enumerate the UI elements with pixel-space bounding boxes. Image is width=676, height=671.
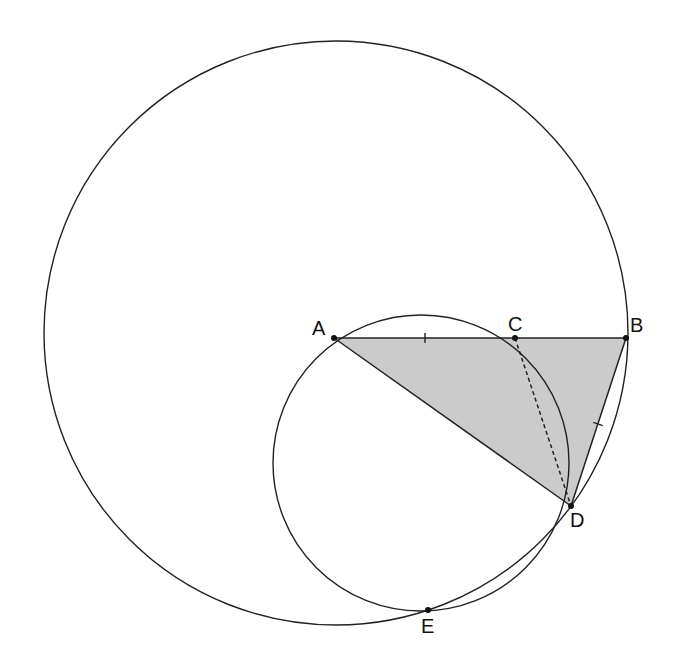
point-label-C: C — [508, 314, 522, 334]
point-label-D: D — [570, 510, 584, 530]
point-A — [331, 335, 337, 341]
large-circle — [44, 41, 628, 625]
point-B — [623, 335, 629, 341]
point-label-A: A — [312, 318, 325, 338]
shaded-triangle — [334, 338, 626, 506]
point-E — [425, 607, 431, 613]
point-label-E: E — [421, 616, 434, 636]
geometry-diagram: ACBDE — [0, 0, 676, 671]
point-C — [512, 335, 518, 341]
point-label-B: B — [630, 315, 643, 335]
diagram-canvas — [0, 0, 676, 671]
